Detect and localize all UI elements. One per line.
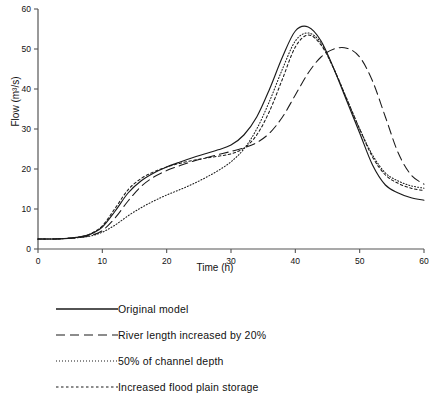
legend-label: Increased flood plain storage xyxy=(118,381,259,393)
series-line xyxy=(38,26,424,239)
legend-item: Increased flood plain storage xyxy=(34,374,434,397)
x-axis-tick-label: 50 xyxy=(355,256,365,266)
x-axis-tick-label: 20 xyxy=(162,256,172,266)
chart-legend: Original model River length increased by… xyxy=(34,296,434,397)
y-axis-tick-label: 30 xyxy=(22,124,32,134)
x-axis-tick-label: 10 xyxy=(98,256,108,266)
series-line xyxy=(38,35,424,239)
legend-swatch-dotted-coarse xyxy=(34,381,118,393)
y-axis-tick-label: 20 xyxy=(22,164,32,174)
y-axis-tick-label: 0 xyxy=(26,244,31,254)
x-axis-tick-label: 0 xyxy=(36,256,41,266)
legend-label: 50% of channel depth xyxy=(118,355,224,367)
legend-swatch-solid xyxy=(34,303,118,315)
legend-swatch-dashed xyxy=(34,329,118,341)
y-axis-title: Flow (m³/s) xyxy=(10,67,21,137)
legend-item: 50% of channel depth xyxy=(34,348,434,374)
legend-swatch-dotted-fine xyxy=(34,355,118,367)
legend-item: River length increased by 20% xyxy=(34,322,434,348)
legend-item: Original model xyxy=(34,296,434,322)
x-axis-title: Time (h) xyxy=(180,262,250,273)
series-line xyxy=(38,33,424,239)
y-axis-tick-label: 10 xyxy=(22,204,32,214)
x-axis-tick-label: 60 xyxy=(419,256,429,266)
plot-area: 01020304050600102030405060 xyxy=(0,0,439,290)
y-axis-tick-label: 60 xyxy=(22,4,32,14)
y-axis-tick-label: 50 xyxy=(22,44,32,54)
y-axis-tick-label: 40 xyxy=(22,84,32,94)
x-axis-tick-label: 40 xyxy=(291,256,301,266)
legend-label: Original model xyxy=(118,303,189,315)
legend-label: River length increased by 20% xyxy=(118,329,266,341)
